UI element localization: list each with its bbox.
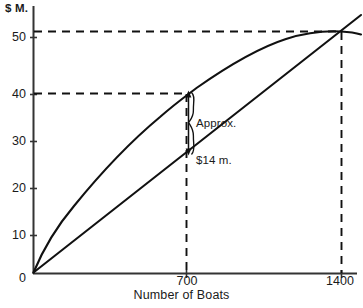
- y-axis-title: $ M.: [5, 2, 28, 14]
- y-tick-label-10: 10: [0, 229, 26, 243]
- y-tick-label-0: 0: [0, 272, 26, 286]
- chart-figure: $ M. 50 40 30 20 10 0 700 1400 Number of…: [0, 0, 363, 308]
- x-tick-label-1400: 1400: [316, 275, 363, 289]
- gap-annotation-line2: $14 m.: [196, 154, 236, 166]
- x-axis-title: Number of Boats: [0, 289, 363, 303]
- gap-annotation-line1: Approx.: [196, 117, 236, 129]
- gap-annotation-text: Approx. $14 m.: [196, 92, 236, 191]
- gap-brace-icon: [189, 93, 194, 155]
- y-tick-label-50: 50: [0, 31, 26, 45]
- chart-plot-area: [0, 0, 363, 308]
- y-tick-label-40: 40: [0, 88, 26, 102]
- x-tick-label-700: 700: [163, 275, 211, 289]
- y-tick-label-20: 20: [0, 182, 26, 196]
- y-tick-label-30: 30: [0, 135, 26, 149]
